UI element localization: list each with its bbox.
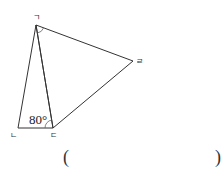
vertex-label-digeut: ㄷ	[50, 131, 57, 140]
angle-arc-giyeok	[38, 28, 44, 33]
triangle-giyeok-digeut-rieul	[36, 25, 133, 128]
angle-value-label: 80°	[29, 112, 47, 127]
answer-close-paren: )	[215, 147, 221, 168]
vertex-label-giyeok: ㄱ	[33, 13, 40, 22]
vertex-label-nieun: ㄴ	[10, 131, 17, 140]
answer-blank[interactable]	[75, 150, 205, 168]
answer-open-paren: (	[63, 147, 69, 168]
vertex-label-rieul: ㄹ	[136, 57, 143, 66]
